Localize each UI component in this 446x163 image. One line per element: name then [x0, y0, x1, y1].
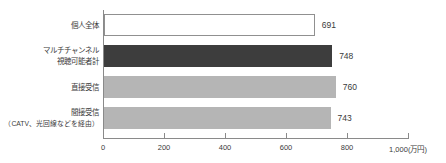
x-tick-label: 400	[219, 143, 232, 152]
bar	[104, 76, 336, 98]
x-tick-label: 600	[280, 143, 293, 152]
bar	[104, 45, 332, 67]
x-tick-label: 200	[158, 143, 171, 152]
category-label-line: 間接受信	[71, 107, 99, 118]
value-label: 691	[322, 20, 336, 30]
category-label-line: 直接受信	[71, 82, 99, 93]
category-label: 直接受信	[0, 76, 99, 98]
x-tick	[408, 133, 409, 138]
x-tick-label: 0	[101, 143, 105, 152]
category-label-line: マルチチャンネル	[43, 45, 99, 56]
category-label: 間接受信（CATV、光回線などを経由）	[0, 107, 99, 129]
x-tick	[286, 133, 287, 138]
bar	[104, 107, 331, 129]
category-label-line: 視聴可能者計	[57, 56, 99, 67]
x-tick-label: 800	[341, 143, 354, 152]
x-tick	[164, 133, 165, 138]
value-label: 743	[338, 113, 352, 123]
bar	[104, 14, 315, 36]
value-label: 760	[343, 82, 357, 92]
category-label-line: （CATV、光回線などを経由）	[4, 118, 99, 129]
category-label: マルチチャンネル視聴可能者計	[0, 45, 99, 67]
category-label: 個人全体	[0, 14, 99, 36]
x-axis-line	[103, 138, 409, 139]
value-label: 748	[339, 51, 353, 61]
category-label-line: 個人全体	[71, 20, 99, 31]
x-tick-label: 1,000(万円)	[389, 143, 427, 154]
x-tick	[347, 133, 348, 138]
bar-chart: 02004006008001,000(万円) 個人全体マルチチャンネル視聴可能者…	[0, 0, 446, 163]
x-tick	[225, 133, 226, 138]
